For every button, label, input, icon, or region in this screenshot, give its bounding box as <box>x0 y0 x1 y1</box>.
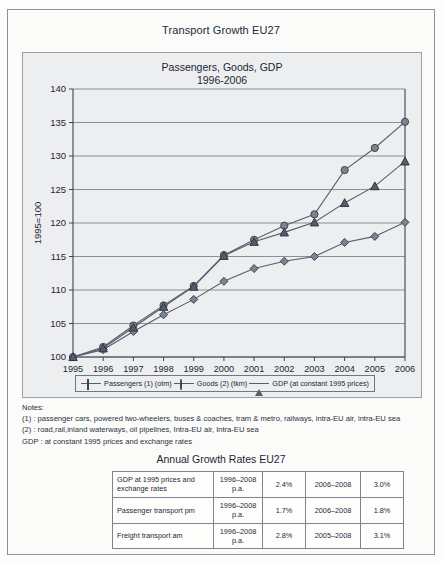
svg-text:105: 105 <box>50 318 66 329</box>
svg-text:100: 100 <box>50 351 66 362</box>
legend-item-passengers: Passengers (1) (otm) <box>81 379 172 389</box>
row-value-1: 1.7% <box>263 497 306 523</box>
svg-text:2005: 2005 <box>365 364 385 374</box>
chart-svg: 100105110115120125130135140 199519961997… <box>23 53 423 399</box>
legend-label-goods: Goods (2) (tkm) <box>197 379 247 388</box>
screenshot-root: Transport Growth EU27 Passengers, Goods,… <box>0 0 443 564</box>
row-value-2: 1.8% <box>361 497 404 523</box>
note-line-3: GDP : at constant 1995 prices and exchan… <box>22 436 427 447</box>
triangle-marker-icon <box>249 379 269 389</box>
growth-table-title: Annual Growth Rates EU27 <box>8 453 434 465</box>
svg-text:1995: 1995 <box>63 364 83 374</box>
row-label: Freight transport am <box>113 523 214 549</box>
row-value-2: 3.1% <box>361 523 404 549</box>
row-period-2: 2006–2008 <box>306 497 361 523</box>
row-period-1: 1996–2008 p.a. <box>214 472 263 498</box>
annual-growth-rates-table: GDP at 1995 prices and exchange rates 19… <box>112 471 404 549</box>
y-axis-label: 1995=100 <box>32 202 43 245</box>
svg-text:110: 110 <box>51 284 66 295</box>
circle-marker-icon <box>174 379 194 389</box>
row-period-1: 1996–2008 p.a. <box>214 523 263 549</box>
table-row: Freight transport am 1996–2008 p.a. 2.8%… <box>113 523 404 549</box>
svg-text:120: 120 <box>50 217 66 228</box>
legend-item-goods: Goods (2) (tkm) <box>174 379 247 389</box>
document-frame: Transport Growth EU27 Passengers, Goods,… <box>7 9 435 555</box>
svg-text:2001: 2001 <box>244 364 264 374</box>
svg-text:2003: 2003 <box>304 364 324 374</box>
page-title: Transport Growth EU27 <box>8 24 434 36</box>
svg-text:140: 140 <box>50 83 66 94</box>
series-layer <box>69 118 409 361</box>
svg-text:1997: 1997 <box>123 364 143 374</box>
y-axis-tick-labels: 100105110115120125130135140 <box>50 83 66 362</box>
svg-text:2002: 2002 <box>274 364 294 374</box>
chart-legend: Passengers (1) (otm) Goods (2) (tkm) GDP… <box>75 375 375 392</box>
note-line-1: (1) : passenger cars, powered two-wheele… <box>22 413 427 424</box>
row-label: Passenger transport pm <box>113 497 214 523</box>
row-value-1: 2.4% <box>263 472 306 498</box>
notes-heading: Notes: <box>22 402 427 413</box>
row-value-1: 2.8% <box>263 523 306 549</box>
gridlines <box>69 89 405 361</box>
notes-block: Notes: (1) : passenger cars, powered two… <box>22 402 427 447</box>
diamond-marker-icon <box>81 379 101 389</box>
svg-text:115: 115 <box>51 251 66 262</box>
svg-text:125: 125 <box>50 184 66 195</box>
svg-text:1996: 1996 <box>93 364 113 374</box>
note-line-2: (2) : road,rail,inland waterways, oil pi… <box>22 424 427 435</box>
svg-text:2000: 2000 <box>214 364 234 374</box>
svg-text:2004: 2004 <box>334 364 354 374</box>
svg-text:135: 135 <box>50 117 66 128</box>
svg-text:1998: 1998 <box>153 364 173 374</box>
row-value-2: 3.0% <box>361 472 404 498</box>
svg-text:1999: 1999 <box>184 364 204 374</box>
table-row: Passenger transport pm 1996–2008 p.a. 1.… <box>113 497 404 523</box>
plot-area: 100105110115120125130135140 199519961997… <box>23 53 423 399</box>
chart-panel: Passengers, Goods, GDP 1996-2006 1001051… <box>22 52 422 398</box>
row-period-1: 1996–2008 p.a. <box>214 497 263 523</box>
row-label: GDP at 1995 prices and exchange rates <box>113 472 214 498</box>
legend-item-gdp: GDP (at constant 1995 prices) <box>249 379 369 389</box>
x-axis-tick-labels: 1995199619971998199920002001200220032004… <box>63 364 415 374</box>
table-row: GDP at 1995 prices and exchange rates 19… <box>113 472 404 498</box>
legend-label-passengers: Passengers (1) (otm) <box>104 379 172 388</box>
legend-label-gdp: GDP (at constant 1995 prices) <box>272 379 369 388</box>
row-period-2: 2006–2008 <box>306 472 361 498</box>
row-period-2: 2005–2008 <box>306 523 361 549</box>
svg-text:2006: 2006 <box>395 364 415 374</box>
svg-text:130: 130 <box>50 150 66 161</box>
